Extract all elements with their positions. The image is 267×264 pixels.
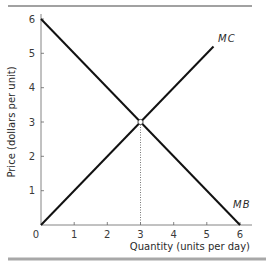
x-tick-label-6: 6 — [237, 229, 243, 240]
y-ticks — [41, 19, 44, 191]
y-axis-title: Price (dollars per unit) — [6, 66, 17, 177]
y-tick-label-5: 5 — [29, 48, 35, 59]
mc-label: MC — [218, 33, 236, 44]
y-tick-label-2: 2 — [29, 151, 35, 162]
x-tick-label-5: 5 — [204, 229, 210, 240]
equilibrium-point — [138, 119, 143, 124]
bottom-rule — [8, 258, 266, 261]
y-tick-label-4: 4 — [29, 82, 35, 93]
mb-label: MB — [233, 199, 251, 210]
x-axis-title: Quantity (units per day) — [130, 241, 250, 252]
y-tick-label-3: 3 — [29, 117, 35, 128]
y-tick-label-1: 1 — [29, 185, 35, 196]
x-tick-label-3: 3 — [137, 229, 143, 240]
x-tick-label-2: 2 — [104, 229, 110, 240]
origin-label: 0 — [33, 229, 39, 240]
mc-mb-chart: 1 2 3 4 5 6 0 1 2 3 4 5 6 Quantity (unit… — [0, 0, 267, 264]
x-tick-label-1: 1 — [71, 229, 77, 240]
mc-curve — [41, 47, 214, 226]
x-ticks — [74, 222, 240, 225]
y-tick-label-6: 6 — [29, 14, 35, 25]
x-tick-label-4: 4 — [171, 229, 177, 240]
